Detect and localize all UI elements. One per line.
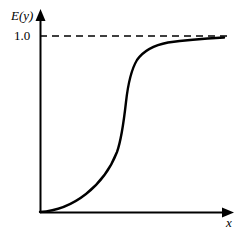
sigmoid-plot-svg	[0, 0, 244, 235]
x-axis-label: x	[226, 216, 232, 229]
y-axis-tick-label-1: 1.0	[14, 29, 30, 42]
x-axis	[40, 208, 234, 218]
sigmoid-curve	[40, 38, 224, 213]
y-axis-arrowhead	[36, 9, 46, 21]
figure-container: E(y) x 1.0	[0, 0, 244, 235]
y-axis-label: E(y)	[11, 9, 33, 22]
y-axis	[36, 9, 46, 213]
